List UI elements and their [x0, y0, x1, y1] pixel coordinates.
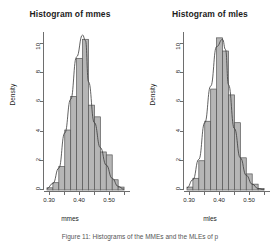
histogram-bar [71, 96, 77, 190]
figure-histograms: Histogram of mmes Density 0 2 4 6 8 10 [0, 0, 280, 248]
y-tick-label: 4 [35, 129, 41, 132]
y-tick-label-wrap: 8 [168, 67, 178, 77]
histogram-bar [217, 38, 223, 190]
x-tick [204, 191, 205, 195]
histogram-bar [77, 58, 83, 190]
figure-caption: Figure 11: Histograms of the MMEs and th… [0, 232, 280, 248]
x-axis-mles: 0.30 0.40 0.50 [184, 191, 270, 199]
x-tick [219, 191, 220, 195]
histogram-bars-mles [187, 38, 264, 190]
y-tick-label-wrap: 4 [168, 126, 178, 136]
x-tick [79, 191, 80, 195]
y-tick-label-wrap: 6 [28, 96, 38, 106]
histogram-bar [246, 174, 252, 190]
histogram-bar [59, 167, 65, 190]
y-tick-label: 6 [175, 99, 181, 102]
y-tick-label-wrap: 0 [28, 184, 38, 194]
y-tick-label: 0 [35, 187, 41, 190]
y-tick-label: 2 [35, 158, 41, 161]
x-tick-label: 0.30 [43, 197, 55, 203]
x-tick-label: 0.40 [213, 197, 225, 203]
y-tick-label-wrap: 10 [168, 40, 178, 50]
y-tick-label-wrap: 2 [168, 155, 178, 165]
y-tick-label-wrap: 6 [168, 96, 178, 106]
x-axis-line [44, 191, 130, 192]
x-tick [264, 191, 265, 195]
histogram-svg-mmes [44, 32, 130, 190]
histogram-bar [211, 89, 217, 190]
histogram-bar [83, 39, 89, 190]
histogram-bar [94, 117, 100, 190]
histogram-bar [53, 183, 59, 190]
x-axis-mmes: 0.30 0.40 0.50 [44, 191, 130, 199]
y-tick-label-wrap: 10 [28, 40, 38, 50]
panel-mmes: Histogram of mmes Density 0 2 4 6 8 10 [0, 0, 140, 232]
x-tick [64, 191, 65, 195]
plot-area-mmes [44, 32, 130, 190]
y-tick-label: 4 [175, 129, 181, 132]
x-axis-label-mles: mles [140, 215, 280, 222]
x-tick [49, 191, 50, 195]
y-tick-label: 8 [175, 70, 181, 73]
y-tick-label: 10 [175, 43, 181, 50]
histogram-bar [252, 184, 258, 190]
histogram-bars-mmes [47, 39, 124, 190]
plot-area-mles [184, 32, 270, 190]
histogram-svg-mles [184, 32, 270, 190]
x-tick-label: 0.50 [243, 197, 255, 203]
x-tick [109, 191, 110, 195]
histogram-bar [205, 121, 211, 190]
x-tick [124, 191, 125, 195]
x-tick [234, 191, 235, 195]
panel-title-mmes: Histogram of mmes [0, 9, 140, 19]
x-axis-label-mmes: mmes [0, 215, 140, 222]
figure-caption-line: Figure 11: Histograms of the MMEs and th… [0, 232, 280, 241]
y-tick-label: 6 [35, 99, 41, 102]
y-tick-label-wrap: 0 [168, 184, 178, 194]
histogram-bar [65, 130, 71, 190]
y-tick-label-wrap: 2 [28, 155, 38, 165]
y-tick-label: 0 [175, 187, 181, 190]
panel-mles: Histogram of mles Density 0 2 4 6 8 10 [140, 0, 280, 232]
x-tick [94, 191, 95, 195]
x-tick-label: 0.40 [73, 197, 85, 203]
y-tick-label-wrap: 8 [28, 67, 38, 77]
histogram-bar [193, 178, 199, 190]
panel-title-mles: Histogram of mles [140, 9, 280, 19]
x-tick-label: 0.30 [183, 197, 195, 203]
x-tick [189, 191, 190, 195]
histogram-bar [199, 161, 205, 190]
histogram-bar [88, 105, 94, 190]
y-tick-label-wrap: 4 [28, 126, 38, 136]
x-tick [249, 191, 250, 195]
y-axis-label-mmes: Density [9, 94, 16, 106]
x-axis-line [184, 191, 270, 192]
y-tick-label: 10 [35, 43, 41, 50]
x-tick-label: 0.50 [103, 197, 115, 203]
y-axis-label-mles: Density [149, 94, 156, 106]
y-tick-label: 8 [35, 70, 41, 73]
y-tick-label: 2 [175, 158, 181, 161]
